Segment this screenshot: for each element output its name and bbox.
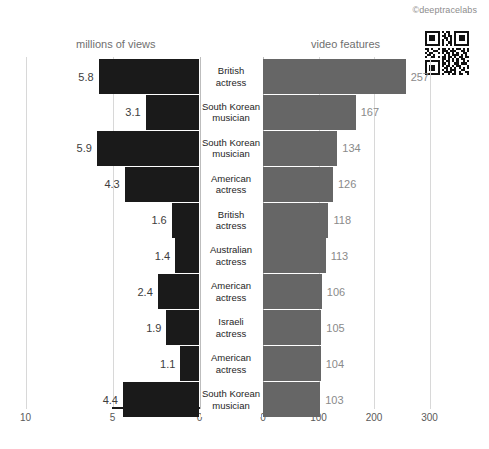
chart-row: 4.4South Koreanmusician103 <box>0 382 489 417</box>
bar-views[interactable] <box>172 203 200 238</box>
category-label-line2: actress <box>216 328 247 340</box>
chart-row: 4.3Americanactress126 <box>0 167 489 202</box>
bar-value-views: 1.1 <box>160 358 175 370</box>
chart-row: 1.9Israeliactress105 <box>0 310 489 345</box>
bar-value-features: 167 <box>361 106 379 118</box>
bar-value-views: 1.9 <box>146 322 161 334</box>
bar-features[interactable] <box>263 95 356 130</box>
bar-views[interactable] <box>180 346 199 381</box>
category-label: South Koreanmusician <box>201 131 261 166</box>
category-label-line1: South Korean <box>202 388 260 400</box>
category-label-line2: actress <box>216 256 247 268</box>
bar-value-views: 2.4 <box>137 286 152 298</box>
category-label: Australianactress <box>201 238 261 273</box>
bar-features[interactable] <box>263 310 321 345</box>
bar-value-features: 118 <box>333 214 351 226</box>
category-label-line2: actress <box>216 364 247 376</box>
category-label-line1: American <box>211 280 251 292</box>
bar-features[interactable] <box>263 59 406 94</box>
chart-row: 5.9South Koreanmusician134 <box>0 131 489 166</box>
bar-value-features: 104 <box>326 358 344 370</box>
diverging-bar-chart: 10500100200300 5.8Britishactress2573.1So… <box>0 0 489 449</box>
bar-features[interactable] <box>263 238 326 273</box>
category-label: Americanactress <box>201 274 261 309</box>
bar-views[interactable] <box>123 382 200 417</box>
category-label-line1: South Korean <box>202 101 260 113</box>
category-label-line2: musician <box>212 148 250 160</box>
bar-views[interactable] <box>166 310 199 345</box>
bar-value-views: 5.8 <box>78 71 93 83</box>
chart-row: 2.4Americanactress106 <box>0 274 489 309</box>
bar-views[interactable] <box>99 59 200 94</box>
bar-features[interactable] <box>263 203 328 238</box>
chart-row: 1.4Australianactress113 <box>0 238 489 273</box>
chart-row: 1.6Britishactress118 <box>0 203 489 238</box>
bar-value-views: 1.4 <box>155 250 170 262</box>
category-label-line2: actress <box>216 292 247 304</box>
chart-row: 1.1Americanactress104 <box>0 346 489 381</box>
bar-views[interactable] <box>175 238 199 273</box>
bar-views[interactable] <box>125 167 200 202</box>
chart-row: 5.8Britishactress257 <box>0 59 489 94</box>
bar-features[interactable] <box>263 346 321 381</box>
bar-value-features: 134 <box>342 142 360 154</box>
category-label-line1: South Korean <box>202 137 260 149</box>
bar-features[interactable] <box>263 274 322 309</box>
bar-value-features: 113 <box>331 250 349 262</box>
category-label-line1: Israeli <box>218 316 243 328</box>
bar-views[interactable] <box>158 274 200 309</box>
bar-value-views: 4.3 <box>104 178 119 190</box>
chart-rows: 5.8Britishactress2573.1South Koreanmusic… <box>0 59 489 418</box>
bar-value-features: 106 <box>327 286 345 298</box>
category-label-line1: American <box>211 352 251 364</box>
bar-value-views: 1.6 <box>151 214 166 226</box>
category-label-line2: actress <box>216 77 247 89</box>
bar-views[interactable] <box>97 131 200 166</box>
category-label: Americanactress <box>201 346 261 381</box>
bar-features[interactable] <box>263 382 320 417</box>
bar-value-features: 126 <box>338 178 356 190</box>
category-label-line1: Australian <box>210 244 252 256</box>
bar-views[interactable] <box>146 95 200 130</box>
category-label-line2: musician <box>212 400 250 412</box>
bar-value-views: 3.1 <box>125 106 140 118</box>
bar-features[interactable] <box>263 131 337 166</box>
bar-value-features: 103 <box>325 394 343 406</box>
category-label-line1: British <box>218 65 244 77</box>
category-label-line2: actress <box>216 184 247 196</box>
bar-value-views: 4.4 <box>103 394 118 406</box>
category-label: Britishactress <box>201 59 261 94</box>
category-label-line2: actress <box>216 220 247 232</box>
category-label-line2: musician <box>212 112 250 124</box>
category-label: Britishactress <box>201 203 261 238</box>
bar-value-views: 5.9 <box>77 142 92 154</box>
category-label: Israeliactress <box>201 310 261 345</box>
category-label: South Koreanmusician <box>201 95 261 130</box>
bar-value-features: 105 <box>326 322 344 334</box>
category-label: Americanactress <box>201 167 261 202</box>
chart-row: 3.1South Koreanmusician167 <box>0 95 489 130</box>
bar-features[interactable] <box>263 167 333 202</box>
category-label-line1: American <box>211 173 251 185</box>
bar-value-features: 257 <box>411 71 429 83</box>
category-label-line1: British <box>218 209 244 221</box>
category-label: South Koreanmusician <box>201 382 261 417</box>
